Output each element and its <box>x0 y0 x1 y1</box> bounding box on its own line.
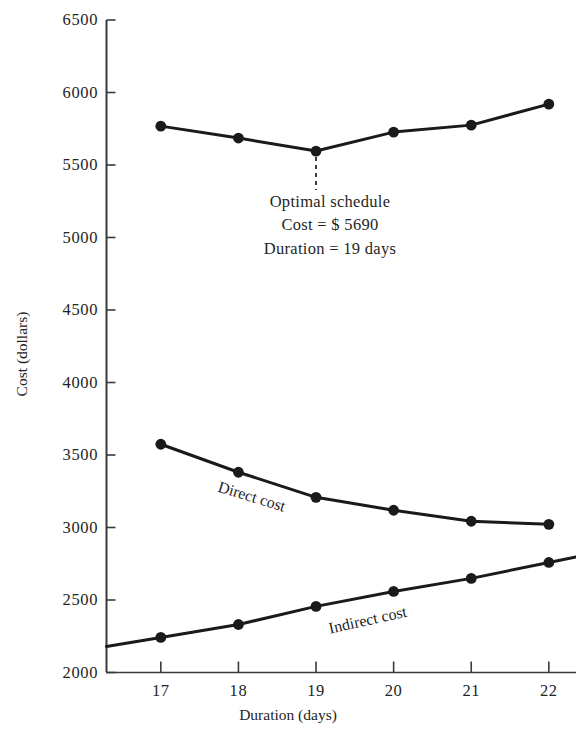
x-axis-ticks <box>161 662 549 673</box>
chart-canvas <box>0 0 576 735</box>
x-tick-label: 19 <box>307 681 325 701</box>
x-tick-label: 18 <box>230 681 248 701</box>
data-point <box>543 519 554 530</box>
y-tick-label: 4000 <box>20 373 98 393</box>
data-point <box>388 586 399 597</box>
annotation-line-2: Cost = $ 5690 <box>228 213 432 236</box>
series-total-cost <box>155 99 554 157</box>
data-point <box>233 619 244 630</box>
data-point <box>155 439 166 450</box>
data-point <box>311 146 322 157</box>
annotation-line-3: Duration = 19 days <box>228 237 432 260</box>
data-point <box>311 492 322 503</box>
optimal-schedule-annotation: Optimal schedule Cost = $ 5690 Duration … <box>228 190 432 260</box>
y-tick-label: 5500 <box>20 155 98 175</box>
series-line <box>161 104 549 151</box>
data-point <box>388 127 399 138</box>
data-point <box>388 505 399 516</box>
y-tick-label: 6500 <box>20 10 98 30</box>
series-direct-cost <box>155 439 554 530</box>
y-tick-label: 6000 <box>20 83 98 103</box>
y-axis-title: Cost (dollars) <box>13 294 31 414</box>
data-point <box>543 99 554 110</box>
y-tick-label: 2500 <box>20 590 98 610</box>
y-tick-label: 3500 <box>20 445 98 465</box>
data-point <box>466 573 477 584</box>
y-tick-label: 5000 <box>20 228 98 248</box>
x-tick-label: 21 <box>462 681 480 701</box>
data-point <box>233 467 244 478</box>
data-point <box>155 632 166 643</box>
data-point <box>466 516 477 527</box>
data-series-group <box>107 99 576 647</box>
annotation-line-1: Optimal schedule <box>228 190 432 213</box>
data-point <box>233 133 244 144</box>
data-point <box>543 557 554 568</box>
y-tick-label: 2000 <box>20 663 98 683</box>
data-point <box>155 121 166 132</box>
x-tick-label: 22 <box>540 681 558 701</box>
y-axis-ticks <box>107 20 116 673</box>
x-tick-label: 20 <box>385 681 403 701</box>
cost-duration-chart: 2000250030003500400045005000550060006500… <box>0 0 576 735</box>
data-point <box>311 601 322 612</box>
x-tick-label: 17 <box>152 681 170 701</box>
axes <box>106 20 576 673</box>
y-tick-label: 3000 <box>20 518 98 538</box>
data-point <box>466 120 477 131</box>
y-tick-label: 4500 <box>20 300 98 320</box>
x-axis-title: Duration (days) <box>0 706 576 724</box>
